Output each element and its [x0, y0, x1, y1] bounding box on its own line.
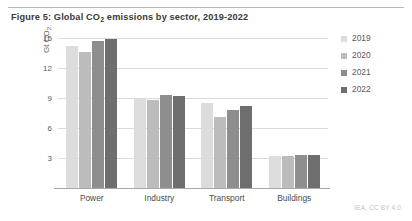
- x-axis-category-label: Industry: [126, 193, 194, 203]
- plot-area: Gt CO2: [58, 38, 328, 188]
- legend-swatch-icon: [341, 87, 347, 93]
- figure-container: Figure 5: Global CO2 emissions by sector…: [0, 0, 412, 221]
- bar: [308, 155, 320, 188]
- legend-swatch-icon: [341, 36, 347, 42]
- y-axis-title-prefix: Gt CO: [42, 30, 51, 53]
- bar: [173, 96, 185, 188]
- caption-text-prefix: Figure 5: Global CO: [11, 12, 100, 22]
- credit-text: IEA. CC BY 4.0.: [354, 204, 403, 211]
- bar: [105, 39, 117, 188]
- bar: [227, 110, 239, 188]
- bar: [160, 95, 172, 188]
- bar-group: [193, 38, 261, 188]
- y-axis-title-subscript: 2: [45, 27, 52, 30]
- legend-item[interactable]: 2022: [341, 82, 371, 97]
- y-axis-tick-label: 12: [36, 64, 52, 73]
- x-axis-line: [54, 188, 330, 189]
- caption-subscript: 2: [100, 16, 104, 23]
- bar: [295, 155, 307, 188]
- bar: [147, 100, 159, 188]
- bar: [269, 156, 281, 188]
- bar: [66, 46, 78, 188]
- bar: [282, 156, 294, 188]
- caption-text-suffix: emissions by sector, 2019-2022: [104, 12, 248, 22]
- y-axis-title: Gt CO2: [42, 27, 51, 53]
- x-axis-category-label: Power: [58, 193, 126, 203]
- bar-group: [261, 38, 329, 188]
- bar: [79, 52, 91, 188]
- legend-item[interactable]: 2020: [341, 48, 371, 63]
- legend-label: 2022: [352, 85, 371, 93]
- legend-swatch-icon: [341, 70, 347, 76]
- bar: [201, 103, 213, 188]
- bar: [92, 41, 104, 188]
- caption-divider: [8, 7, 404, 8]
- bar: [134, 99, 146, 188]
- figure-caption: Figure 5: Global CO2 emissions by sector…: [11, 12, 248, 22]
- x-axis-category-label: Transport: [193, 193, 261, 203]
- y-axis-tick-label: 9: [36, 94, 52, 103]
- chart-legend: 2019202020212022: [341, 31, 371, 99]
- legend-item[interactable]: 2019: [341, 31, 371, 46]
- x-axis-category-label: Buildings: [261, 193, 329, 203]
- y-axis-tick-label: 3: [36, 154, 52, 163]
- legend-label: 2021: [352, 68, 371, 76]
- bar: [240, 106, 252, 188]
- legend-item[interactable]: 2021: [341, 65, 371, 80]
- legend-label: 2020: [352, 51, 371, 59]
- y-axis-tick-label: 6: [36, 124, 52, 133]
- bar: [214, 117, 226, 188]
- legend-label: 2019: [352, 34, 371, 42]
- bar-group: [58, 38, 126, 188]
- legend-swatch-icon: [341, 53, 347, 59]
- bar-group: [126, 38, 194, 188]
